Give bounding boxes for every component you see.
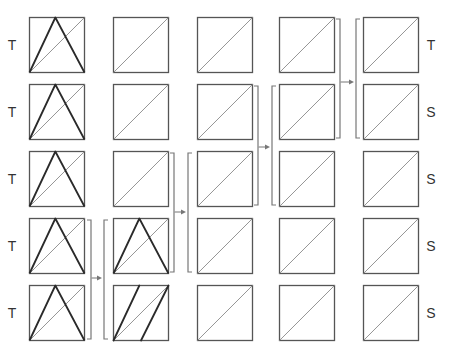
cell-diagonal [198, 85, 253, 140]
cell-diagonal [198, 152, 253, 207]
merge-brackets [87, 19, 360, 339]
closing-bracket [170, 153, 174, 272]
arrow-head-icon [181, 210, 186, 215]
cell-diagonal [30, 18, 85, 73]
cell-diagonal [280, 85, 335, 140]
cell-diagonal [30, 286, 85, 341]
cell-diagonal [280, 286, 335, 341]
cell-diagonal [280, 219, 335, 274]
cell-diagonal [114, 18, 169, 73]
right-row-label: S [424, 171, 438, 187]
opening-bracket [356, 19, 360, 138]
closing-bracket [254, 86, 258, 205]
cell-diagonal [114, 18, 169, 73]
right-row-label: S [424, 305, 438, 321]
arrow-head-icon [97, 276, 102, 281]
right-row-label: T [424, 37, 438, 53]
cell-diagonal [364, 286, 419, 341]
cell-diagonal [364, 286, 419, 341]
cell-diagonal [30, 152, 85, 207]
cell-diagonal [198, 152, 253, 207]
cell-diagonal [198, 219, 253, 274]
opening-bracket [104, 220, 108, 339]
cell-diagonal [198, 18, 253, 73]
merge-step-1 [87, 220, 108, 339]
cell-diagonal [280, 219, 335, 274]
cell-triangle [30, 85, 85, 140]
merge-step-4 [336, 19, 360, 138]
arrow-head-icon [349, 80, 354, 85]
cell-triangle [114, 219, 169, 274]
cell-diagonal [364, 85, 419, 140]
cell-diagonal [364, 219, 419, 274]
cell-diagonal [280, 152, 335, 207]
cell-triangle [30, 286, 85, 341]
cell-triangle [30, 18, 85, 73]
cell-diagonal [364, 85, 419, 140]
cell-diagonal [114, 85, 169, 140]
cell-diagonal [364, 152, 419, 207]
merge-step-2 [170, 153, 192, 272]
cell-triangle [30, 152, 85, 207]
cell-diagonal [364, 18, 419, 73]
parallelogram-right-edge [141, 286, 169, 341]
closing-bracket [336, 19, 340, 138]
cell-diagonal [364, 152, 419, 207]
cell-diagonal [114, 152, 169, 207]
cell-diagonal [364, 219, 419, 274]
cell-diagonal [198, 85, 253, 140]
cell-diagonal [280, 18, 335, 73]
left-row-label: T [5, 37, 19, 53]
cell-diagonal [198, 286, 253, 341]
opening-bracket [272, 86, 276, 205]
cell-diagonal [198, 219, 253, 274]
left-row-label: T [5, 171, 19, 187]
cell-diagonal [364, 18, 419, 73]
cell-triangle [30, 219, 85, 274]
cell-diagonal [280, 18, 335, 73]
right-row-label: S [424, 104, 438, 120]
cell-diagonal [30, 85, 85, 140]
right-row-label: S [424, 238, 438, 254]
merge-step-3 [254, 86, 276, 205]
cell-grid [30, 18, 419, 341]
cell-diagonal [114, 152, 169, 207]
cell-diagonal [114, 219, 169, 274]
left-row-label: T [5, 104, 19, 120]
cell-diagonal [198, 286, 253, 341]
cell-diagonal [280, 152, 335, 207]
left-row-label: T [5, 238, 19, 254]
arrow-head-icon [265, 145, 270, 150]
cell-diagonal [114, 286, 169, 341]
merge-diagram [0, 0, 451, 354]
opening-bracket [188, 153, 192, 272]
cell-parallelogram [114, 286, 169, 341]
left-row-label: T [5, 305, 19, 321]
parallelogram-left-edge [114, 286, 140, 341]
cell-diagonal [114, 85, 169, 140]
cell-diagonal [30, 219, 85, 274]
closing-bracket [87, 220, 91, 339]
cell-diagonal [280, 85, 335, 140]
cell-diagonal [198, 18, 253, 73]
cell-diagonal [280, 286, 335, 341]
